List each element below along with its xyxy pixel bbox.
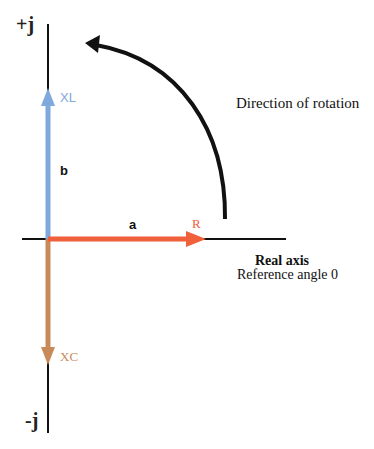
xc-label: XC <box>60 350 78 363</box>
segment-b-label: b <box>60 164 68 177</box>
r-phasor-arrow <box>48 231 206 247</box>
phasor-diagram: +j -j XL XC b a R Direction of rotation … <box>0 0 374 449</box>
rotation-arrow <box>85 35 225 219</box>
xl-phasor-arrow <box>41 88 55 239</box>
negative-j-label: -j <box>25 410 38 430</box>
rotation-label: Direction of rotation <box>236 96 359 111</box>
positive-j-label: +j <box>16 14 34 34</box>
real-axis-label: Real axis <box>255 254 309 268</box>
reference-angle-label: Reference angle 0 <box>237 268 338 282</box>
xl-label: XL <box>60 91 76 104</box>
segment-a-label: a <box>129 218 136 231</box>
xc-phasor-arrow <box>41 239 55 365</box>
r-label: R <box>192 217 201 230</box>
